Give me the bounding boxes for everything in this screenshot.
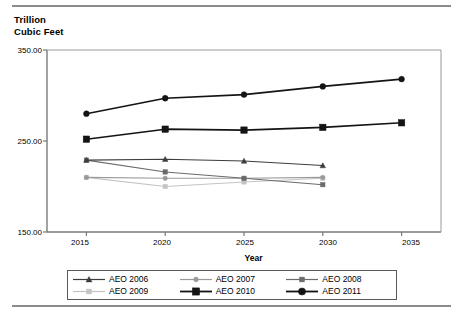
data-point-marker [162, 126, 168, 132]
legend-marker-square-large-icon [179, 286, 213, 297]
y-tick-label-150: 150.00 [0, 228, 42, 237]
data-point-marker [242, 176, 246, 180]
data-point-marker [193, 277, 198, 282]
series-aeo-2008 [84, 158, 325, 187]
data-point-marker [299, 287, 306, 294]
x-axis-title: Year [245, 253, 263, 263]
legend-label: AEO 2007 [216, 274, 255, 284]
data-point-marker [399, 76, 405, 82]
legend-item-aeo-2007[interactable]: AEO 2007 [179, 273, 286, 285]
x-tick-label-2035: 2035 [389, 238, 433, 247]
legend-marker-triangle-icon [72, 274, 106, 285]
legend-marker-circle-large-icon [285, 286, 319, 297]
data-point-marker [320, 124, 326, 130]
legend-label: AEO 2008 [322, 274, 361, 284]
legend-item-aeo-2009[interactable]: AEO 2009 [72, 285, 179, 297]
data-point-marker [84, 111, 90, 117]
series-line [86, 177, 322, 178]
legend-label: AEO 2010 [216, 286, 255, 296]
legend-item-aeo-2008[interactable]: AEO 2008 [285, 273, 392, 285]
legend-label: AEO 2009 [109, 286, 148, 296]
series-aeo-2010 [83, 120, 405, 143]
y-tick-label-350: 350.00 [0, 46, 42, 55]
legend-marker-circle-icon [179, 274, 213, 285]
data-point-marker [162, 95, 168, 101]
data-point-marker [84, 175, 88, 179]
data-point-marker [321, 182, 325, 186]
x-tick-label-2030: 2030 [306, 238, 350, 247]
legend-marker-square-icon [72, 286, 106, 297]
data-point-marker [83, 136, 89, 142]
data-point-marker [300, 277, 305, 282]
chart-figure: Trillion Cubic Feet 350.00 250.00 150.00… [0, 0, 463, 327]
y-tick-label-250: 250.00 [0, 137, 42, 146]
legend-label: AEO 2006 [109, 274, 148, 284]
data-point-marker [163, 176, 167, 180]
legend-marker-square-icon [285, 274, 319, 285]
x-tick-label-2020: 2020 [140, 238, 184, 247]
x-tick-label-2025: 2025 [223, 238, 267, 247]
data-point-marker [163, 170, 167, 174]
data-point-marker [241, 127, 247, 133]
legend-item-aeo-2011[interactable]: AEO 2011 [285, 285, 392, 297]
series-aeo-2011 [84, 76, 405, 116]
data-point-marker [163, 184, 167, 188]
legend-item-aeo-2006[interactable]: AEO 2006 [72, 273, 179, 285]
data-point-marker [398, 120, 404, 126]
legend-item-aeo-2010[interactable]: AEO 2010 [179, 285, 286, 297]
data-point-marker [87, 289, 92, 294]
legend-label: AEO 2011 [322, 286, 361, 296]
series-line [86, 159, 322, 165]
data-point-marker [192, 287, 199, 294]
data-point-marker [241, 92, 247, 98]
series-aeo-2006 [84, 156, 326, 167]
data-point-marker [320, 84, 326, 90]
x-tick-label-2015: 2015 [58, 238, 102, 247]
data-point-marker [321, 175, 325, 179]
x-axis-title-wrap: Year [0, 253, 463, 263]
chart-legend: AEO 2006AEO 2007AEO 2008AEO 2009AEO 2010… [67, 270, 397, 300]
